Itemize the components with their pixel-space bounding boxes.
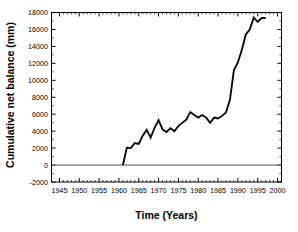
x-tick-label: 1955 <box>91 186 107 195</box>
y-tick-label: 0 <box>44 161 48 170</box>
chart-plot-area: 1945195019551960196519701975198019851990… <box>0 0 298 232</box>
y-tick-label: 14000 <box>28 42 48 51</box>
y-tick-label: 18000 <box>28 8 48 17</box>
y-axis-title: Cumulative net balance (mm) <box>0 0 20 190</box>
x-tick-label: 1975 <box>170 186 186 195</box>
y-tick-label: 16000 <box>28 25 48 34</box>
x-tick-label: 1945 <box>51 186 67 195</box>
x-tick-label: 2000 <box>270 186 286 195</box>
y-tick-label: 10000 <box>28 76 48 85</box>
x-tick-label: 1970 <box>151 186 167 195</box>
x-tick-label: 1990 <box>230 186 246 195</box>
x-tick-label: 1950 <box>71 186 87 195</box>
y-tick-label: 8000 <box>32 93 48 102</box>
y-tick-label: 4000 <box>32 127 48 136</box>
y-tick-label: 6000 <box>32 110 48 119</box>
y-tick-label: 12000 <box>28 59 48 68</box>
x-tick-label: 1995 <box>250 186 266 195</box>
y-tick-label: 2000 <box>32 144 48 153</box>
x-tick-label: 1985 <box>210 186 226 195</box>
y-tick-label: -2000 <box>30 178 48 187</box>
x-tick-label: 1980 <box>190 186 206 195</box>
chart-figure: 1945195019551960196519701975198019851990… <box>0 0 298 232</box>
x-axis-title: Time (Years) <box>51 205 282 223</box>
x-tick-label: 1965 <box>131 186 147 195</box>
x-axis-title-text: Time (Years) <box>135 209 197 221</box>
x-tick-label: 1960 <box>111 186 127 195</box>
y-axis-title-text: Cumulative net balance (mm) <box>4 22 16 168</box>
